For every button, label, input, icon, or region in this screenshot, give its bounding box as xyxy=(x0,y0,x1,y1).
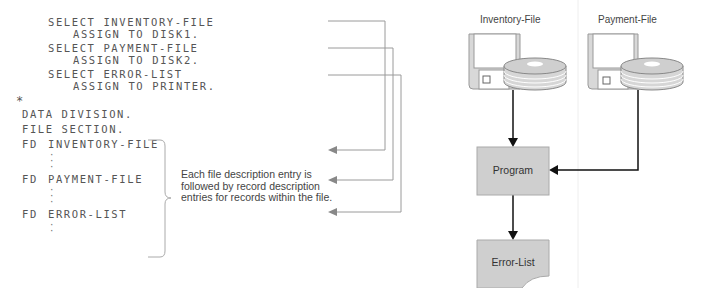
curly-brace xyxy=(148,140,171,257)
arrow-left-icon xyxy=(328,146,337,154)
payment-file-label: Payment-File xyxy=(598,14,657,25)
arrow-left-icon xyxy=(549,165,558,175)
error-list-label: Error-List xyxy=(477,256,549,268)
disk-pack-icon xyxy=(504,58,566,90)
arrow-down-icon xyxy=(508,231,518,240)
select-to-fd-connectors xyxy=(328,21,401,212)
arrow-left-icon xyxy=(328,208,337,216)
connector-arrowheads xyxy=(328,146,337,216)
arrow-down-icon xyxy=(508,138,518,147)
diagram-graphics xyxy=(0,0,703,288)
program-label: Program xyxy=(477,164,549,176)
inventory-file-label: Inventory-File xyxy=(480,14,541,25)
disk-pack-icon xyxy=(621,58,683,90)
arrow-left-icon xyxy=(328,176,337,184)
